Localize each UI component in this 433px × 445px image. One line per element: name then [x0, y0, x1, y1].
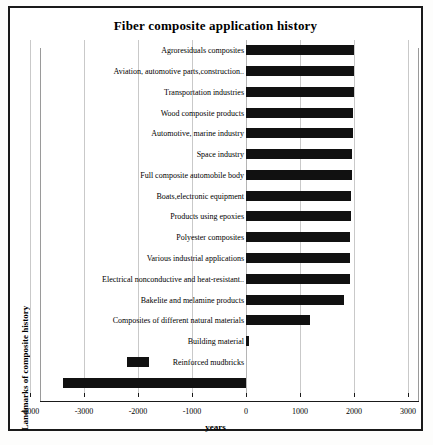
bar-row: Reinforced mudbricks — [30, 351, 408, 372]
tick-label-2000: 2000 — [332, 407, 376, 416]
bar-row: Automotive, marine industry — [30, 123, 408, 144]
category-label: Aviation, automotive parts,construction.… — [114, 67, 245, 76]
tick--2000 — [138, 393, 139, 397]
bar-row: Transportation industries — [30, 82, 408, 103]
bar — [246, 274, 350, 284]
tick-label--1000: -1000 — [170, 407, 214, 416]
bar — [246, 315, 310, 325]
bar — [246, 108, 353, 118]
tick-label--3000: -3000 — [62, 407, 106, 416]
bar-row: Plywood — [30, 372, 408, 393]
category-label: Products using epoxies — [170, 212, 244, 221]
bar-row: Bakelite and melamine products — [30, 289, 408, 310]
bar — [246, 295, 344, 305]
bar — [127, 357, 149, 367]
category-label: Wood composite products — [161, 108, 244, 117]
bar — [246, 232, 350, 242]
bar-row: Boats,electronic equipment — [30, 185, 408, 206]
bar-row: Composites of different natural material… — [30, 310, 408, 331]
tick-label--4000: -4000 — [8, 407, 52, 416]
category-label: Full composite automobile body — [140, 170, 244, 179]
bar — [246, 170, 352, 180]
category-label: Automotive, marine industry — [151, 129, 244, 138]
bar-row: Full composite automobile body — [30, 165, 408, 186]
gridline-3000 — [408, 40, 409, 393]
bar-row: Polyester composites — [30, 227, 408, 248]
bar-row: Aviation, automotive parts,construction.… — [30, 61, 408, 82]
bar-row: Products using epoxies — [30, 206, 408, 227]
tick--3000 — [84, 393, 85, 397]
bar — [246, 87, 354, 97]
bar — [246, 253, 350, 263]
tick-label--2000: -2000 — [116, 407, 160, 416]
y-axis-label-wrapper: Landmarks of composite history — [24, 298, 25, 299]
bar — [246, 149, 352, 159]
tick--1000 — [192, 393, 193, 397]
bar — [246, 128, 353, 138]
bar-row: Building material — [30, 331, 408, 352]
bar — [246, 45, 354, 55]
bar — [246, 66, 354, 76]
category-label: Bakelite and melamine products — [141, 295, 244, 304]
tick-3000 — [408, 393, 409, 397]
tick-1000 — [300, 393, 301, 397]
category-label: Space industry — [197, 150, 244, 159]
category-label: Electrical nonconductive and heat-resist… — [102, 274, 244, 283]
bar-row: Space industry — [30, 144, 408, 165]
category-label: Transportation industries — [164, 87, 244, 96]
x-axis-line — [40, 401, 419, 402]
tick-label-1000: 1000 — [278, 407, 322, 416]
category-label: Boats,electronic equipment — [156, 191, 244, 200]
figure-frame: Fiber composite application history Land… — [8, 6, 423, 431]
bar — [246, 191, 351, 201]
tick-label-3000: 3000 — [386, 407, 430, 416]
category-label: Various industrial applications — [147, 254, 244, 263]
plot-right-border — [418, 48, 419, 401]
bar-row: Agroresiduals composites — [30, 40, 408, 61]
bar — [246, 336, 249, 346]
bar — [63, 378, 246, 388]
bar-row: Various industrial applications — [30, 248, 408, 269]
chart-figure: Fiber composite application history Land… — [0, 0, 433, 445]
bar-row: Electrical nonconductive and heat-resist… — [30, 268, 408, 289]
tick-0 — [246, 393, 247, 397]
bar-row: Wood composite products — [30, 102, 408, 123]
chart-title: Fiber composite application history — [10, 18, 421, 34]
category-label: Building material — [188, 337, 244, 346]
tick-2000 — [354, 393, 355, 397]
tick-label-0: 0 — [224, 407, 268, 416]
x-axis-label: years — [10, 422, 421, 432]
bar — [246, 211, 351, 221]
category-label: Reinforced mudbricks — [173, 357, 244, 366]
category-label: Agroresiduals composites — [161, 46, 244, 55]
category-label: Composites of different natural material… — [113, 316, 244, 325]
tick--4000 — [30, 393, 31, 397]
category-label: Polyester composites — [176, 233, 244, 242]
